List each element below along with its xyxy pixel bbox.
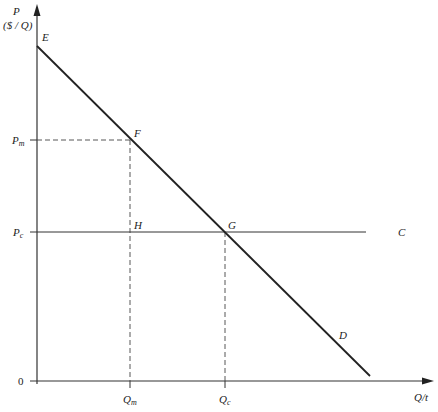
point-label-g: G [228,219,236,231]
origin-label: 0 [18,375,24,387]
point-label-h: H [133,219,143,231]
point-label-c: C [398,226,406,238]
x-axis-label: Q/t [414,391,429,403]
quantity-label-qm: Qm [123,393,137,407]
y-axis-arrow-icon [34,4,41,16]
demand-curve [37,46,370,376]
price-label-pc: Pc [12,226,24,240]
diagram-canvas: P ($ / Q) Q/t 0 Pm Pc Qm Qc E F H G C D [0,0,438,412]
x-axis-arrow-icon [422,378,434,385]
point-label-f: F [133,127,141,139]
price-label-pm: Pm [11,134,25,148]
y-axis-label-units: ($ / Q) [3,19,33,32]
point-label-d: D [338,329,347,341]
quantity-label-qc: Qc [219,393,231,407]
point-label-e: E [41,31,49,43]
y-axis-label-p: P [12,5,20,17]
